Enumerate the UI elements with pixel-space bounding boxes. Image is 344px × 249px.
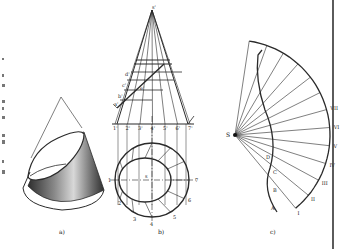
- plan-radial-line: [132, 199, 134, 212]
- caption-b: b): [158, 228, 164, 235]
- development-roman-label: I: [297, 210, 299, 216]
- plan-radial-line: [120, 162, 123, 170]
- front-generator-lines: [115, 10, 190, 124]
- development-ray: [235, 64, 298, 135]
- front-base-labels: 1'2'3'4'5'6'7': [113, 125, 193, 131]
- panel-b-projections: s' d' c' b' a' e' 1'2'3'4'5'6'7' s 1 2 3…: [108, 4, 198, 235]
- front-generator-line: [115, 10, 152, 124]
- plan-radial-line: [145, 202, 152, 217]
- development-ray: [235, 135, 308, 195]
- panel-a-pictorial-cone: a): [23, 97, 104, 235]
- development-outer-arc: [249, 41, 330, 208]
- front-generator-line: [128, 10, 153, 124]
- plan-projection-lines: [118, 124, 186, 205]
- front-base-label: 5': [163, 125, 168, 131]
- section-label-e: e': [140, 85, 144, 91]
- plan-radial-line: [158, 148, 171, 161]
- curve-label-C: C: [273, 169, 277, 175]
- development-roman-label: II: [311, 196, 315, 202]
- development-roman-label: III: [322, 180, 328, 186]
- cone-ghost-edge-right: [61, 97, 82, 128]
- figure-canvas: a) s' d' c' b' a' e' 1'2'3'4'5'6'7' s 1 …: [0, 0, 344, 249]
- plan-label-1: 1: [108, 177, 111, 183]
- plan-radial-line: [168, 191, 185, 199]
- development-ray: [235, 135, 329, 146]
- curve-label-A: A: [270, 205, 275, 211]
- front-base-label: 4': [151, 125, 156, 131]
- plan-radial-line: [120, 191, 123, 199]
- plan-label-6: 6: [188, 197, 191, 203]
- front-generator-line: [152, 10, 165, 124]
- plan-label-5: 5: [173, 214, 176, 220]
- plan-radial-line: [168, 162, 185, 170]
- section-label-c: c': [122, 82, 126, 88]
- front-base-label: 3': [138, 125, 143, 131]
- plan-label-2: 2: [118, 200, 121, 206]
- panel-c-development: S A B C D IIIIIIIVVVIVII c): [226, 41, 339, 235]
- caption-a: a): [59, 228, 65, 235]
- front-base-label: 6': [176, 125, 181, 131]
- plan-radial-line: [158, 199, 171, 212]
- development-ray: [235, 135, 296, 208]
- apex-label-s-prime: s': [152, 4, 156, 10]
- plan-label-3: 3: [133, 216, 136, 222]
- left-margin-text-fragments: [2, 58, 5, 174]
- plan-radial-line: [132, 148, 134, 161]
- plan-label-7: 7: [195, 177, 198, 183]
- section-label-a: a': [114, 101, 118, 107]
- development-apex-point: [233, 133, 237, 137]
- development-ray-lines: [235, 41, 330, 208]
- plan-center-label: s: [145, 173, 148, 179]
- curve-label-B: B: [273, 187, 277, 193]
- section-label-d: d': [125, 71, 130, 77]
- plan-label-4: 4: [150, 221, 153, 227]
- development-ray: [235, 77, 310, 135]
- section-label-b: b': [118, 93, 123, 99]
- front-base-label: 1': [113, 125, 118, 131]
- front-generator-line: [152, 10, 178, 124]
- development-ray: [235, 41, 249, 135]
- plan-radial-line: [145, 143, 152, 158]
- curve-label-D: D: [266, 154, 270, 160]
- front-base-label: 2': [126, 125, 131, 131]
- front-generator-line: [140, 10, 152, 124]
- front-generator-line: [152, 10, 190, 124]
- front-generator-line: [152, 10, 153, 124]
- development-apex-label: S: [226, 131, 230, 138]
- caption-c: c): [270, 228, 276, 235]
- front-base-label: 7': [188, 125, 193, 131]
